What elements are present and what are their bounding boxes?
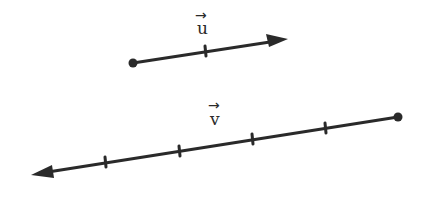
vector-v-tick-1 (325, 123, 326, 133)
vector-v-label: v (210, 111, 220, 128)
vector-v-tick-2 (252, 134, 253, 144)
vector-v-tick-4 (105, 157, 106, 167)
vector-u (129, 34, 289, 68)
vector-u-label: u (197, 20, 208, 37)
vector-u-shaft (133, 42, 270, 63)
vector-v-arrowhead-icon (31, 165, 54, 178)
vector-v-tick-3 (179, 146, 180, 156)
vector-v-shaft (48, 117, 398, 172)
vector-u-tail-dot (129, 59, 138, 68)
vector-u-tick (205, 46, 206, 56)
vector-v-tail-dot (394, 113, 403, 122)
vector-u-arrowhead-icon (266, 34, 288, 47)
